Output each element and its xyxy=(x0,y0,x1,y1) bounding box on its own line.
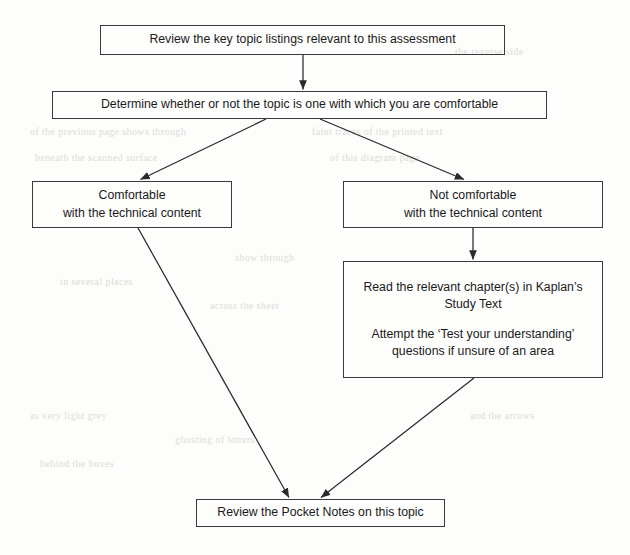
edge-study-text-to-pocket-notes xyxy=(321,378,474,498)
node-review-key-topics-text: Review the key topic listings relevant t… xyxy=(107,31,498,48)
node-review-pocket-notes[interactable]: Review the Pocket Notes on this topic xyxy=(196,499,445,527)
edge-determine-to-not-comfortable xyxy=(320,119,464,180)
node-review-pocket-notes-text: Review the Pocket Notes on this topic xyxy=(203,504,438,521)
node-not-comfortable-text: Not comfortablewith the technical conten… xyxy=(350,187,596,222)
node-comfortable[interactable]: Comfortablewith the technical content xyxy=(32,181,232,228)
node-not-comfortable[interactable]: Not comfortablewith the technical conten… xyxy=(343,181,603,228)
node-text-line: Read the relevant chapter(s) in Kaplan’s xyxy=(350,279,596,296)
flowchart-canvas: the reverse sideof the previous page sho… xyxy=(0,0,630,555)
node-review-key-topics[interactable]: Review the key topic listings relevant t… xyxy=(100,25,505,55)
node-determine-comfort[interactable]: Determine whether or not the topic is on… xyxy=(52,91,547,119)
node-text-line: Review the key topic listings relevant t… xyxy=(107,31,498,48)
node-text-line: Attempt the ‘Test your understanding’ xyxy=(350,326,596,343)
node-text-line: Not comfortable xyxy=(350,187,596,204)
node-read-study-text-text: Read the relevant chapter(s) in Kaplan’s… xyxy=(350,279,596,361)
node-text-line: questions if unsure of an area xyxy=(350,343,596,360)
node-text-line: with the technical content xyxy=(39,205,225,222)
node-read-study-text[interactable]: Read the relevant chapter(s) in Kaplan’s… xyxy=(343,261,603,378)
node-comfortable-text: Comfortablewith the technical content xyxy=(39,187,225,222)
node-text-line: Comfortable xyxy=(39,187,225,204)
edge-comfortable-to-pocket-notes xyxy=(138,228,289,498)
node-text-line: Review the Pocket Notes on this topic xyxy=(203,504,438,521)
node-determine-comfort-text: Determine whether or not the topic is on… xyxy=(59,96,540,113)
edge-determine-to-comfortable xyxy=(141,119,267,180)
node-text-line xyxy=(350,314,596,326)
node-text-line: Study Text xyxy=(350,296,596,313)
node-text-line: Determine whether or not the topic is on… xyxy=(59,96,540,113)
node-text-line: with the technical content xyxy=(350,205,596,222)
